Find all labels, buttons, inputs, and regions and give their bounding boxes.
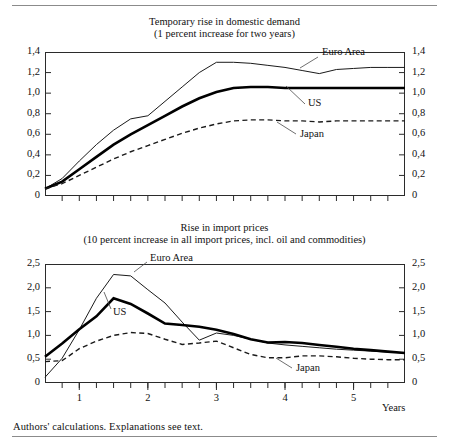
chart2-xtick-5: 5 [339,392,369,403]
chart1-ytick-right-0_6: 0,6 [412,127,446,138]
chart1-ytick-left-0_4: 0,4 [6,148,40,159]
footer-divider [12,436,437,437]
chart2-ytick-right-2_5: 2,5 [412,257,446,268]
chart2-series-euro-area [45,274,405,377]
chart2-ytick-left-1_5: 1,5 [6,305,40,316]
chart2-label-euro: Euro Area [150,252,193,263]
chart1-ytick-right-1_2: 1,2 [412,66,446,77]
source-footnote: Authors' calculations. Explanations see … [13,421,203,432]
chart1-label-japan: Japan [300,128,324,139]
chart1-label-us: US [308,97,321,108]
chart1-ytick-right-1_0: 1,0 [412,86,446,97]
chart2-ytick-left-0: 0 [6,376,40,387]
chart2-ytick-right-0: 0 [412,376,446,387]
chart1-ytick-left-0: 0 [6,189,40,200]
chart2-ytick-left-2_5: 2,5 [6,257,40,268]
chart2-ytick-left-2_0: 2,0 [6,281,40,292]
chart1-ytick-left-1_4: 1,4 [6,45,40,56]
chart2-ytick-right-2_0: 2,0 [412,281,446,292]
chart1-ytick-left-1_2: 1,2 [6,66,40,77]
chart2-ytick-left-1_0: 1,0 [6,328,40,339]
chart1-ytick-right-1_4: 1,4 [412,45,446,56]
chart2-xtick-2: 2 [133,392,163,403]
chart1-ytick-left-0_8: 0,8 [6,107,40,118]
chart2-ytick-right-1_0: 1,0 [412,328,446,339]
chart1-ytick-right-0: 0 [412,189,446,200]
chart2-label-us: US [113,306,126,317]
chart1-ytick-left-0_6: 0,6 [6,127,40,138]
chart2-canvas [0,0,449,444]
chart2-xtick-3: 3 [201,392,231,403]
chart2-xtick-4: 4 [270,392,300,403]
chart2-leader-euro [134,262,147,272]
chart2-xtick-1: 1 [64,392,94,403]
chart1-ytick-right-0_8: 0,8 [412,107,446,118]
chart1-ytick-left-1_0: 1,0 [6,86,40,97]
chart1-label-euro: Euro Area [322,46,365,57]
chart1-ytick-right-0_4: 0,4 [412,148,446,159]
chart2-series-us [45,298,405,357]
chart2-series-japan [45,333,405,362]
chart2-ytick-right-0_5: 0,5 [412,352,446,363]
chart1-ytick-left-0_2: 0,2 [6,168,40,179]
x-axis-years-label: Years [382,402,405,413]
chart2-label-japan: Japan [296,362,320,373]
chart2-ytick-left-0_5: 0,5 [6,352,40,363]
chart1-ytick-right-0_2: 0,2 [412,168,446,179]
chart2-ytick-right-1_5: 1,5 [412,305,446,316]
chart2-leader-japan [276,358,292,368]
